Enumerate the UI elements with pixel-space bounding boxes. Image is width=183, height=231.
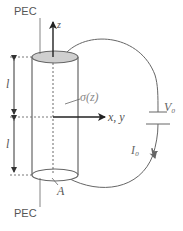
pec-bottom-label: PEC — [14, 208, 37, 219]
top-cap — [32, 51, 78, 63]
area-label: A — [57, 185, 64, 197]
bottom-cap — [32, 169, 78, 181]
xy-axis-label: x, y — [108, 111, 125, 123]
circuit-wire-bottom — [68, 124, 158, 187]
conductivity-label: σ(z) — [80, 91, 99, 103]
diagram-canvas: PEC z l l σ(z) x, y V₀ I₀ A PEC — [0, 0, 183, 231]
pec-top-label: PEC — [14, 6, 37, 17]
current-label: I₀ — [131, 144, 139, 156]
voltage-label: V₀ — [164, 101, 176, 113]
z-axis-label: z — [57, 20, 61, 30]
length-upper-label: l — [6, 78, 9, 90]
diagram-svg — [0, 0, 183, 231]
length-lower-label: l — [6, 138, 9, 150]
